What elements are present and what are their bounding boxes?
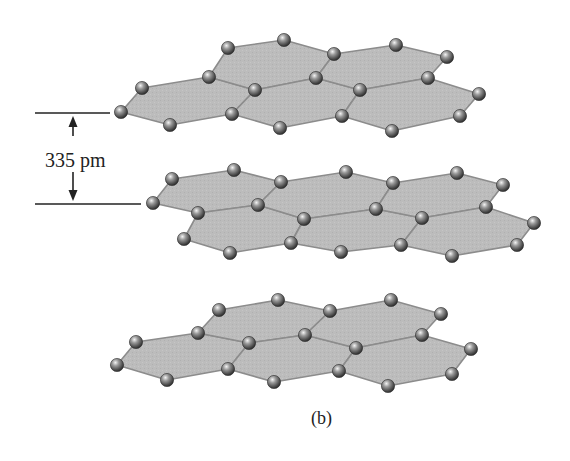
graphite-layers-diagram [0,0,570,461]
carbon-atom [369,202,382,215]
carbon-atom [110,358,123,371]
carbon-atom [284,236,297,249]
carbon-atom [385,124,398,137]
carbon-atom [163,118,176,131]
carbon-atom [165,172,178,185]
top-layer [121,40,479,131]
carbon-atom [242,336,255,349]
carbon-atom [332,364,345,377]
carbon-atom [297,212,310,225]
carbon-atom [421,71,434,84]
carbon-atom [510,238,523,251]
carbon-atom [334,245,347,258]
carbon-atom [223,246,236,259]
carbon-atom [450,166,463,179]
middle-layer [153,170,534,256]
down-arrow-icon [69,190,78,201]
carbon-atom [453,109,466,122]
up-arrow-icon [69,116,78,127]
carbon-atom [389,38,402,51]
carbon-atom [496,178,509,191]
graphene-sheets [117,40,534,386]
layer-spacing-label: 335 pm [45,149,106,171]
bottom-layer [117,300,471,386]
carbon-atom [191,206,204,219]
carbon-atom [323,304,336,317]
carbon-atom [353,83,366,96]
carbon-atom [415,328,428,341]
carbon-atom [177,232,190,245]
carbon-atom [339,165,352,178]
carbon-atom [191,326,204,339]
carbon-atom [273,121,286,134]
carbon-atom [309,71,322,84]
carbon-atom [221,362,234,375]
carbon-atom [277,33,290,46]
carbon-atom [212,303,225,316]
carbon-atom [271,293,284,306]
carbon-atom [298,328,311,341]
carbon-atom [434,307,447,320]
carbon-atom [445,367,458,380]
carbon-atom [386,176,399,189]
carbon-atom [135,81,148,94]
carbon-atom [202,70,215,83]
carbon-atom [440,50,453,63]
carbon-atom [267,375,280,388]
carbon-atom [384,293,397,306]
carbon-atom [251,198,264,211]
carbon-atom [327,47,340,60]
carbon-atom [274,175,287,188]
carbon-atom [445,249,458,262]
carbon-atom [394,238,407,251]
carbon-atom [479,200,492,213]
figure-caption: (b) [311,407,332,429]
carbon-atom [464,342,477,355]
carbon-atom [335,109,348,122]
carbon-atom [527,216,540,229]
carbon-atom [248,83,261,96]
carbon-atom [114,105,127,118]
carbon-atom [227,163,240,176]
carbon-atom [225,107,238,120]
carbon-atom [349,341,362,354]
carbon-atom [146,196,159,209]
carbon-atom [129,335,142,348]
carbon-atom [415,211,428,224]
carbon-atom [221,41,234,54]
carbon-atom [472,87,485,100]
carbon-atom [160,373,173,386]
carbon-atom [381,379,394,392]
